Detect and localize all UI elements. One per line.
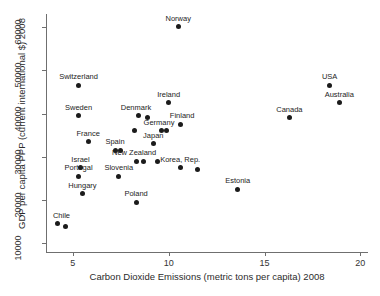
y-tick-mark (42, 114, 46, 115)
data-point-label: Sweden (65, 103, 92, 112)
data-point[interactable] (136, 113, 141, 118)
data-point-label: Slovenia (104, 163, 133, 172)
data-point-label: Ireland (157, 90, 180, 99)
y-axis-title: GDP per capita PPP (current internationa… (16, 0, 27, 249)
x-tick-label: 10 (164, 258, 174, 268)
data-point-label: Canada (276, 105, 302, 114)
data-point-label: Japan (143, 131, 163, 140)
x-axis-title: Carbon Dioxide Emissions (metric tons pe… (46, 271, 368, 282)
y-tick-mark (42, 200, 46, 201)
data-point[interactable] (155, 159, 160, 164)
data-point-label: Australia (325, 90, 354, 99)
data-point-label: Korea, Rep. (160, 155, 200, 164)
x-tick-mark (73, 252, 74, 256)
data-point[interactable] (80, 191, 85, 196)
data-point-label: Denmark (121, 103, 151, 112)
data-point-label: Spain (105, 137, 124, 146)
data-point[interactable] (63, 224, 68, 229)
data-point-label: Estonia (225, 176, 250, 185)
data-point-label: USA (322, 72, 337, 81)
x-tick-label: 15 (259, 258, 269, 268)
data-point-label: Portugal (65, 163, 93, 172)
data-point[interactable] (337, 100, 342, 105)
y-tick-mark (42, 70, 46, 71)
scatter-plot-figure: 5101520100002000030000400005000060000 No… (0, 0, 380, 296)
data-point-label: Chile (53, 211, 70, 220)
data-point-label: New Zealand (112, 148, 156, 157)
data-point-label: Israel (71, 155, 89, 164)
x-axis-line (46, 252, 368, 253)
data-point[interactable] (134, 159, 139, 164)
data-point[interactable] (141, 159, 146, 164)
x-tick-mark (265, 252, 266, 256)
y-tick-mark (42, 157, 46, 158)
y-tick-mark (42, 243, 46, 244)
data-point-label: Poland (124, 189, 147, 198)
x-tick-label: 5 (70, 258, 75, 268)
data-point[interactable] (76, 174, 81, 179)
data-point-label: France (76, 129, 99, 138)
data-point-label: Norway (166, 14, 191, 23)
y-axis-line (46, 14, 47, 252)
data-point-label: Germany (144, 118, 175, 127)
x-tick-label: 20 (355, 258, 365, 268)
x-tick-mark (169, 252, 170, 256)
data-point[interactable] (76, 83, 81, 88)
x-tick-mark (360, 252, 361, 256)
data-point-label: Switzerland (59, 72, 98, 81)
data-point[interactable] (178, 122, 183, 127)
data-point[interactable] (235, 187, 240, 192)
data-point[interactable] (86, 139, 91, 144)
data-point[interactable] (134, 200, 139, 205)
data-point-label: Hungary (68, 181, 96, 190)
y-tick-mark (42, 27, 46, 28)
data-point[interactable] (178, 165, 183, 170)
